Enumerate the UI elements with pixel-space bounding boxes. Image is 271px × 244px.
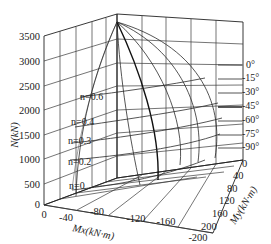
contour-n02 bbox=[70, 134, 220, 160]
annotation-n03: n=0.3 bbox=[68, 135, 91, 146]
z-axis-ticks: 3500 3000 2500 2000 1500 1000 500 0 bbox=[19, 31, 40, 210]
svg-text:-40: -40 bbox=[59, 212, 73, 223]
svg-text:40: 40 bbox=[233, 170, 244, 181]
annotation-n0: n=0 bbox=[69, 180, 85, 191]
x-axis-label: Mx(kN·m) bbox=[70, 222, 115, 243]
svg-text:2000: 2000 bbox=[19, 105, 40, 116]
annotation-n04: n=0.4 bbox=[71, 116, 94, 127]
svg-text:0: 0 bbox=[35, 199, 40, 210]
svg-text:160: 160 bbox=[212, 208, 228, 219]
svg-text:3500: 3500 bbox=[19, 31, 40, 42]
legend-45deg: -45° bbox=[242, 100, 259, 111]
svg-text:-120: -120 bbox=[126, 213, 145, 224]
x-axis-ticks: 0 -40 -80 -120 -160 -200 bbox=[41, 206, 207, 243]
legend-15deg: -15° bbox=[242, 72, 259, 83]
curve-15deg bbox=[76, 22, 117, 196]
svg-text:120: 120 bbox=[219, 195, 235, 206]
svg-text:0: 0 bbox=[242, 158, 247, 169]
annotation-n06: n=0.6 bbox=[80, 91, 103, 102]
svg-text:500: 500 bbox=[24, 179, 40, 190]
n-annotations: n=0.6 n=0.4 n=0.3 n=0.2 n=0 bbox=[68, 91, 103, 191]
legend-75deg: -75° bbox=[242, 128, 259, 139]
legend-60deg: -60° bbox=[242, 114, 259, 125]
legend-30deg: -30° bbox=[242, 86, 259, 97]
svg-text:1000: 1000 bbox=[19, 154, 40, 165]
svg-text:-200: -200 bbox=[188, 232, 207, 243]
annotation-n02: n=0.2 bbox=[68, 156, 91, 167]
interaction-surface-chart: n=0.6 n=0.4 n=0.3 n=0.2 n=0 3500 3000 25… bbox=[0, 0, 271, 244]
svg-text:-160: -160 bbox=[156, 216, 175, 227]
legend-0deg: 0° bbox=[246, 59, 255, 70]
svg-text:3000: 3000 bbox=[19, 56, 40, 67]
svg-text:-80: -80 bbox=[90, 206, 104, 217]
legend-90deg: -90° bbox=[242, 141, 259, 152]
right-wall-grid bbox=[117, 14, 243, 178]
left-wall-grid bbox=[44, 14, 117, 205]
svg-text:2500: 2500 bbox=[19, 81, 40, 92]
curve-75deg bbox=[117, 22, 199, 162]
svg-text:200: 200 bbox=[201, 221, 217, 232]
svg-text:1500: 1500 bbox=[19, 130, 40, 141]
curve-45deg bbox=[117, 22, 158, 180]
svg-text:80: 80 bbox=[227, 183, 238, 194]
svg-text:0: 0 bbox=[41, 209, 46, 220]
z-axis-label: N(kN) bbox=[9, 122, 21, 149]
